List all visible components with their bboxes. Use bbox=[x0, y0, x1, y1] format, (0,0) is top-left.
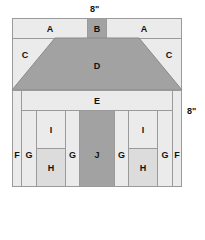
piece-g-1: G bbox=[21, 110, 37, 187]
piece-j: J bbox=[79, 110, 115, 187]
piece-h-right: H bbox=[128, 148, 158, 187]
piece-h-left: H bbox=[36, 148, 66, 187]
piece-g-2: G bbox=[65, 110, 80, 187]
piece-g-4: G bbox=[157, 110, 173, 187]
piece-i-left: I bbox=[36, 110, 66, 149]
piece-c-right: C bbox=[166, 50, 173, 60]
piece-e: E bbox=[21, 90, 173, 111]
piece-f-right: F bbox=[172, 90, 182, 187]
piece-d: D bbox=[94, 61, 101, 71]
piece-c-left: C bbox=[22, 50, 29, 60]
piece-i-right: I bbox=[128, 110, 158, 149]
piece-g-3: G bbox=[114, 110, 129, 187]
